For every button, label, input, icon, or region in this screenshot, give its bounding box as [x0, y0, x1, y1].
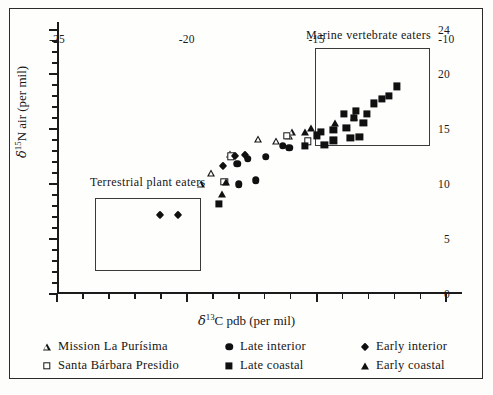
legend-item-label: Mission La Purísima [58, 339, 168, 354]
data-point [283, 132, 290, 139]
x-axis-minor-tick [82, 294, 84, 299]
x-axis-tick-label: -20 [179, 33, 195, 45]
legend-item-label: Santa Bárbara Presidio [58, 358, 179, 373]
data-point [394, 83, 401, 90]
y-axis-tick-label: 10 [438, 178, 450, 190]
data-point [356, 133, 363, 140]
legend-item[interactable]: Late coastal [221, 356, 306, 375]
x-axis-major-tick [445, 294, 447, 302]
y-axis-minor-tick [52, 216, 57, 218]
data-point [197, 181, 205, 188]
y-axis-minor-tick [52, 95, 57, 97]
data-point [378, 95, 385, 102]
data-point [340, 110, 347, 117]
data-point [364, 110, 371, 117]
y-axis-minor-tick [52, 227, 57, 229]
y-axis-superscript: 15 [13, 141, 23, 150]
data-point [386, 92, 393, 99]
y-axis-delta-symbol: δ [14, 150, 29, 158]
annotation-box [95, 198, 201, 272]
legend-item[interactable]: Early coastal [357, 356, 447, 375]
y-axis-minor-tick [52, 117, 57, 119]
legend-item[interactable]: Early interior [357, 337, 447, 356]
x-axis-minor-tick [394, 294, 396, 299]
y-axis-minor-tick [52, 205, 57, 207]
circle-filled-icon [225, 343, 233, 351]
x-axis-minor-tick [342, 294, 344, 299]
x-axis-minor-tick [160, 294, 162, 299]
data-point [321, 141, 328, 148]
y-axis-major-tick [49, 29, 57, 31]
data-point [343, 124, 350, 131]
x-axis-major-tick [316, 294, 318, 302]
legend-column: Mission La PurísimaSanta Bárbara Presidi… [39, 337, 179, 375]
x-axis-title-rest: C pdb (per mil) [215, 313, 296, 328]
x-axis-minor-tick [368, 294, 370, 299]
square-filled-icon [225, 362, 232, 369]
legend-marker-triangle-filled-icon [357, 359, 373, 373]
y-axis-title-rest: N air (per mil) [14, 66, 29, 141]
annotation-label: Terrestrial plant eaters [90, 174, 206, 189]
legend-item-label: Late coastal [240, 358, 304, 373]
legend-item[interactable]: Santa Bárbara Presidio [39, 356, 179, 375]
x-axis-minor-tick [212, 294, 214, 299]
y-axis-minor-tick [52, 84, 57, 86]
data-point [254, 136, 262, 143]
data-point [252, 176, 260, 184]
y-axis-minor-tick [52, 172, 57, 174]
data-point [370, 100, 377, 107]
y-axis-minor-tick [52, 260, 57, 262]
data-point [330, 137, 337, 144]
legend-marker-square-open-icon [39, 359, 55, 373]
data-point [216, 200, 223, 207]
triangle-filled-icon [361, 362, 369, 369]
legend-item[interactable]: Late interior [221, 337, 306, 356]
x-axis-superscript: 13 [206, 312, 215, 322]
legend-marker-square-filled-icon [221, 359, 237, 373]
x-axis-tick-label: -25 [49, 33, 65, 45]
x-axis-minor-tick [238, 294, 240, 299]
data-point [331, 119, 339, 126]
data-point [307, 125, 315, 132]
y-axis-minor-tick [52, 194, 57, 196]
x-axis-title: δ13C pdb (per mil) [0, 312, 493, 329]
y-axis-minor-tick [52, 271, 57, 273]
legend-marker-diamond-filled-icon [357, 340, 373, 354]
x-axis-tick-label: -10 [438, 33, 454, 45]
data-point [235, 181, 243, 189]
square-open-icon [43, 362, 50, 369]
data-point [234, 160, 242, 168]
legend-marker-triangle-open-icon [39, 340, 55, 354]
y-axis-minor-tick [52, 51, 57, 53]
y-axis-tick-label: 15 [438, 123, 450, 135]
data-point [286, 144, 294, 152]
data-point [218, 191, 226, 198]
legend-column: Early interiorEarly coastal [357, 337, 447, 375]
legend-item-label: Late interior [240, 339, 306, 354]
x-axis-minor-tick [264, 294, 266, 299]
data-point [330, 126, 337, 133]
x-axis-minor-tick [420, 294, 422, 299]
data-point [222, 178, 230, 185]
data-point [360, 119, 367, 126]
y-axis-major-tick [49, 183, 57, 185]
data-point [262, 153, 270, 161]
y-axis-tick-label: 5 [444, 233, 450, 245]
y-axis-minor-tick [52, 282, 57, 284]
y-axis-minor-tick [52, 139, 57, 141]
x-axis-major-tick [186, 294, 188, 302]
data-point [207, 170, 215, 177]
y-axis-major-tick [49, 73, 57, 75]
x-axis-line [57, 292, 462, 294]
data-point [301, 142, 308, 149]
plot-area: 0510152024 -25-20-15-10 Marine vertebrat… [57, 22, 462, 294]
y-axis-minor-tick [52, 150, 57, 152]
triangle-open-icon [43, 343, 51, 350]
data-point [317, 128, 324, 135]
annotation-label: Marine vertebrate eaters [306, 28, 431, 43]
legend-item[interactable]: Mission La Purísima [39, 337, 179, 356]
x-axis-major-tick [56, 294, 58, 302]
x-axis-minor-tick [134, 294, 136, 299]
y-axis-tick-label: 20 [438, 68, 450, 80]
legend-column: Late interiorLate coastal [221, 337, 306, 375]
